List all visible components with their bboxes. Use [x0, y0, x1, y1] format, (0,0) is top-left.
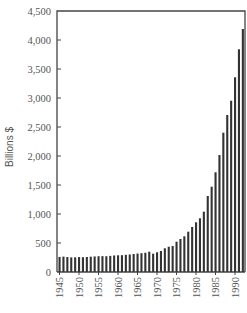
bar-1947 [66, 257, 68, 272]
bar-1976 [179, 239, 181, 272]
y-axis: 05001,0001,5002,0002,5003,0003,5004,0004… [27, 6, 61, 278]
y-tick-label: 2,000 [27, 151, 51, 162]
x-tick-label: 1975 [171, 277, 182, 298]
bar-chart: 05001,0001,5002,0002,5003,0003,5004,0004… [0, 0, 247, 313]
bar-1960 [117, 255, 119, 272]
bar-1952 [86, 257, 88, 272]
bar-1964 [133, 254, 135, 272]
bar-1971 [160, 251, 162, 272]
x-tick-label: 1980 [191, 277, 202, 298]
bar-1975 [176, 242, 178, 272]
bar-1984 [211, 187, 213, 272]
bar-1985 [215, 172, 217, 272]
bar-1966 [140, 253, 142, 272]
bar-1963 [129, 254, 131, 272]
y-tick-label: 3,000 [27, 93, 51, 104]
bar-1986 [218, 155, 220, 272]
bar-1973 [168, 247, 170, 272]
bar-1988 [226, 115, 228, 272]
x-axis: 1945195019551960196519701975198019851990 [54, 272, 241, 298]
bar-1955 [98, 256, 100, 272]
bar-1977 [183, 236, 185, 272]
bar-1954 [94, 256, 96, 272]
x-tick-label: 1990 [230, 277, 241, 298]
y-axis-label: Billions $ [4, 127, 15, 167]
y-tick-label: 2,500 [27, 122, 51, 133]
bar-1961 [121, 255, 123, 272]
bar-1951 [82, 257, 84, 272]
bar-1987 [222, 133, 224, 272]
y-tick-label: 500 [35, 238, 51, 249]
bar-1978 [187, 232, 189, 272]
x-tick-label: 1950 [74, 277, 85, 298]
bar-1949 [74, 257, 76, 272]
x-tick-label: 1970 [152, 277, 163, 298]
bar-1970 [156, 252, 158, 272]
bars [59, 29, 244, 272]
bar-1957 [105, 256, 107, 272]
bar-1945 [59, 257, 61, 272]
bar-1948 [70, 257, 72, 272]
x-tick-label: 1965 [132, 277, 143, 298]
bar-1969 [152, 254, 154, 272]
x-tick-label: 1960 [113, 277, 124, 298]
y-tick-label: 0 [46, 267, 51, 278]
bar-1983 [207, 196, 209, 272]
bar-1989 [230, 101, 232, 272]
y-tick-label: 3,500 [27, 64, 51, 75]
bar-1965 [137, 254, 139, 272]
bar-1990 [234, 77, 236, 272]
bar-1950 [78, 257, 80, 272]
x-tick-label: 1985 [210, 277, 221, 298]
bar-1956 [101, 256, 103, 272]
plot-border [57, 11, 245, 272]
y-tick-label: 1,000 [27, 209, 51, 220]
y-tick-label: 4,000 [27, 35, 51, 46]
plot-frame [57, 11, 245, 272]
bar-1980 [195, 222, 197, 272]
bar-1981 [199, 218, 201, 272]
bar-1953 [90, 257, 92, 272]
bar-1982 [203, 212, 205, 272]
bar-1968 [148, 252, 150, 272]
y-tick-label: 4,500 [27, 6, 51, 17]
y-tick-label: 1,500 [27, 180, 51, 191]
bar-1992 [242, 29, 244, 272]
bar-1959 [113, 255, 115, 272]
bar-1979 [191, 227, 193, 272]
bar-1991 [238, 49, 240, 272]
bar-1974 [172, 246, 174, 272]
bar-1972 [164, 248, 166, 272]
bar-1958 [109, 256, 111, 272]
x-tick-label: 1955 [93, 277, 104, 298]
bar-1962 [125, 255, 127, 272]
bar-1967 [144, 253, 146, 272]
bar-1946 [62, 257, 64, 272]
x-tick-label: 1945 [54, 277, 65, 298]
